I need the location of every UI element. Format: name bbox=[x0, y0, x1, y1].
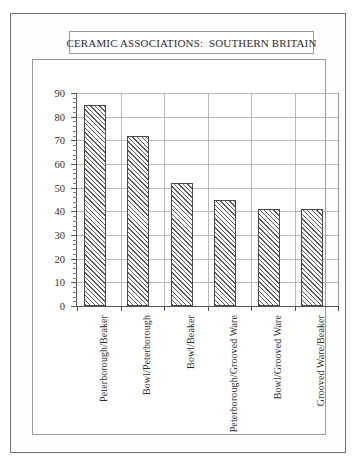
gridline-vertical bbox=[295, 93, 296, 306]
y-axis-label: 10 bbox=[43, 277, 65, 288]
y-axis-tick bbox=[71, 164, 77, 165]
y-axis-label: 50 bbox=[43, 182, 65, 193]
y-axis-tick bbox=[71, 259, 77, 260]
y-axis-tick bbox=[71, 282, 77, 283]
x-axis-tick bbox=[121, 306, 122, 311]
y-axis-minor-tick bbox=[73, 102, 77, 103]
y-axis-minor-tick bbox=[73, 226, 77, 227]
x-axis-tick bbox=[251, 306, 252, 311]
y-axis-minor-tick bbox=[73, 202, 77, 203]
y-axis-minor-tick bbox=[73, 244, 77, 245]
y-axis-minor-tick bbox=[73, 121, 77, 122]
y-axis-minor-tick bbox=[73, 126, 77, 127]
y-axis-minor-tick bbox=[73, 297, 77, 298]
y-axis-minor-tick bbox=[73, 131, 77, 132]
bar bbox=[127, 136, 149, 306]
y-axis-tick bbox=[71, 117, 77, 118]
y-axis-minor-tick bbox=[73, 145, 77, 146]
x-axis-tick bbox=[338, 306, 339, 311]
bar bbox=[301, 209, 323, 306]
y-axis-minor-tick bbox=[73, 98, 77, 99]
x-axis-tick bbox=[164, 306, 165, 311]
x-axis-label: Bowl/Grooved Ware bbox=[272, 315, 283, 399]
y-axis-minor-tick bbox=[73, 150, 77, 151]
y-axis-minor-tick bbox=[73, 249, 77, 250]
y-axis-minor-tick bbox=[73, 292, 77, 293]
y-axis-tick bbox=[71, 188, 77, 189]
y-axis-tick bbox=[71, 211, 77, 212]
bar bbox=[84, 105, 106, 306]
y-axis-minor-tick bbox=[73, 136, 77, 137]
bar bbox=[258, 209, 280, 306]
y-axis-label: 80 bbox=[43, 111, 65, 122]
y-axis-minor-tick bbox=[73, 192, 77, 193]
y-axis-minor-tick bbox=[73, 155, 77, 156]
y-axis-label: 30 bbox=[43, 230, 65, 241]
x-axis-tick bbox=[77, 306, 78, 311]
y-axis-label: 70 bbox=[43, 135, 65, 146]
y-axis-minor-tick bbox=[73, 216, 77, 217]
page-title: CERAMIC ASSOCIATIONS: SOUTHERN BRITAIN bbox=[66, 37, 316, 49]
y-axis-label: 20 bbox=[43, 253, 65, 264]
x-axis-label: Bowl/Beaker bbox=[185, 315, 196, 369]
y-axis-minor-tick bbox=[73, 273, 77, 274]
plot-area: 0102030405060708090Peterborough/BeakerPe… bbox=[76, 93, 338, 307]
plot-right-edge bbox=[338, 93, 339, 306]
y-axis-label: 90 bbox=[43, 88, 65, 99]
y-axis-minor-tick bbox=[73, 268, 77, 269]
y-axis-tick bbox=[71, 93, 77, 94]
y-axis-tick bbox=[71, 140, 77, 141]
x-axis-label: Bowl/Peterborough bbox=[141, 315, 152, 395]
x-axis-label: Peterborough/Grooved Ware bbox=[228, 315, 239, 432]
y-axis-minor-tick bbox=[73, 207, 77, 208]
y-axis-minor-tick bbox=[73, 240, 77, 241]
bar bbox=[214, 200, 236, 307]
gridline-vertical bbox=[208, 93, 209, 306]
y-axis-label: 60 bbox=[43, 159, 65, 170]
y-axis-minor-tick bbox=[73, 254, 77, 255]
y-axis-minor-tick bbox=[73, 263, 77, 264]
y-axis-minor-tick bbox=[73, 178, 77, 179]
chart-title-box: CERAMIC ASSOCIATIONS: SOUTHERN BRITAIN bbox=[69, 31, 314, 54]
y-axis-minor-tick bbox=[73, 107, 77, 108]
y-axis-minor-tick bbox=[73, 230, 77, 231]
y-axis-minor-tick bbox=[73, 112, 77, 113]
x-axis-tick bbox=[295, 306, 296, 311]
gridline-vertical bbox=[164, 93, 165, 306]
y-axis-minor-tick bbox=[73, 173, 77, 174]
gridline-vertical bbox=[251, 93, 252, 306]
y-axis-label: 40 bbox=[43, 206, 65, 217]
page-frame: CERAMIC ASSOCIATIONS: SOUTHERN BRITAIN 0… bbox=[10, 13, 346, 453]
x-axis-label: Grooved Ware/Beaker bbox=[315, 315, 326, 406]
bar bbox=[171, 183, 193, 306]
y-axis-minor-tick bbox=[73, 197, 77, 198]
y-axis-minor-tick bbox=[73, 221, 77, 222]
y-axis-minor-tick bbox=[73, 169, 77, 170]
chart-panel: 0102030405060708090Peterborough/BeakerPe… bbox=[32, 59, 326, 435]
y-axis-minor-tick bbox=[73, 278, 77, 279]
y-axis-minor-tick bbox=[73, 301, 77, 302]
y-axis-minor-tick bbox=[73, 287, 77, 288]
gridline-vertical bbox=[121, 93, 122, 306]
x-axis-tick bbox=[208, 306, 209, 311]
y-axis-tick bbox=[71, 235, 77, 236]
y-axis-minor-tick bbox=[73, 183, 77, 184]
y-axis-minor-tick bbox=[73, 159, 77, 160]
y-axis-label: 0 bbox=[43, 301, 65, 312]
x-axis-label: Peterborough/Beaker bbox=[98, 315, 109, 402]
